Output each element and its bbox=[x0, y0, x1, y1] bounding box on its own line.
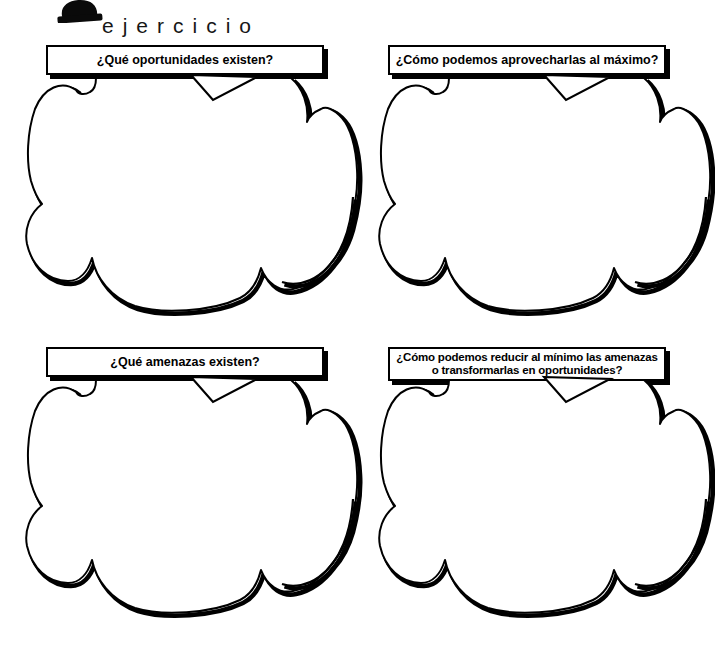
quadrant-opportunities: ¿Qué oportunidades existen? bbox=[8, 40, 362, 332]
quadrant-threats: ¿Qué amenazas existen? bbox=[8, 342, 362, 634]
quadrant-minimize-threats: ¿Cómo podemos reducir al mínimo las amen… bbox=[361, 342, 715, 634]
question-banner: ¿Qué oportunidades existen? bbox=[46, 45, 324, 75]
answer-area bbox=[48, 130, 318, 290]
question-banner: ¿Cómo podemos aprovecharlas al máximo? bbox=[388, 45, 666, 75]
quadrant-maximize-opportunities: ¿Cómo podemos aprovecharlas al máximo? bbox=[361, 40, 715, 332]
page-title: ejercicio bbox=[102, 14, 260, 38]
exercise-stamp-icon bbox=[57, 0, 103, 23]
question-banner: ¿Cómo podemos reducir al mínimo las amen… bbox=[388, 347, 666, 381]
answer-area bbox=[401, 432, 671, 592]
question-banner: ¿Qué amenazas existen? bbox=[46, 347, 324, 377]
answer-area bbox=[401, 130, 671, 290]
worksheet-page: ejercicio ¿Qué oportunidades existen? ¿C… bbox=[0, 0, 715, 646]
answer-area bbox=[48, 432, 318, 592]
